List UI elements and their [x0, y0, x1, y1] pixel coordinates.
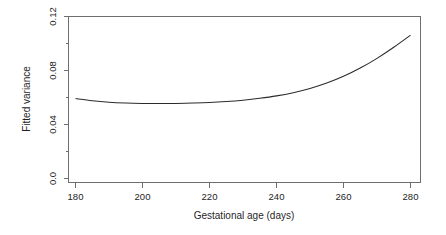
- y-tick-label: 0.08: [47, 61, 58, 80]
- y-tick-label: 0.04: [47, 115, 58, 134]
- x-tick-label: 260: [336, 191, 352, 202]
- x-tick-label: 180: [68, 191, 84, 202]
- y-tick-label: 0.12: [47, 7, 58, 26]
- x-tick-label: 280: [403, 191, 419, 202]
- chart-figure: 0.12 0.08 0.04 0.0 180 200 220 240 260 2…: [0, 0, 446, 235]
- x-tick-label: 220: [202, 191, 218, 202]
- y-axis-title: Fitted variance: [21, 66, 32, 132]
- y-tick-label: 0.0: [47, 172, 58, 185]
- fitted-variance-line-chart: 0.12 0.08 0.04 0.0 180 200 220 240 260 2…: [0, 0, 446, 235]
- x-axis-title: Gestational age (days): [194, 210, 295, 221]
- x-tick-label: 240: [269, 191, 285, 202]
- x-tick-label: 200: [135, 191, 151, 202]
